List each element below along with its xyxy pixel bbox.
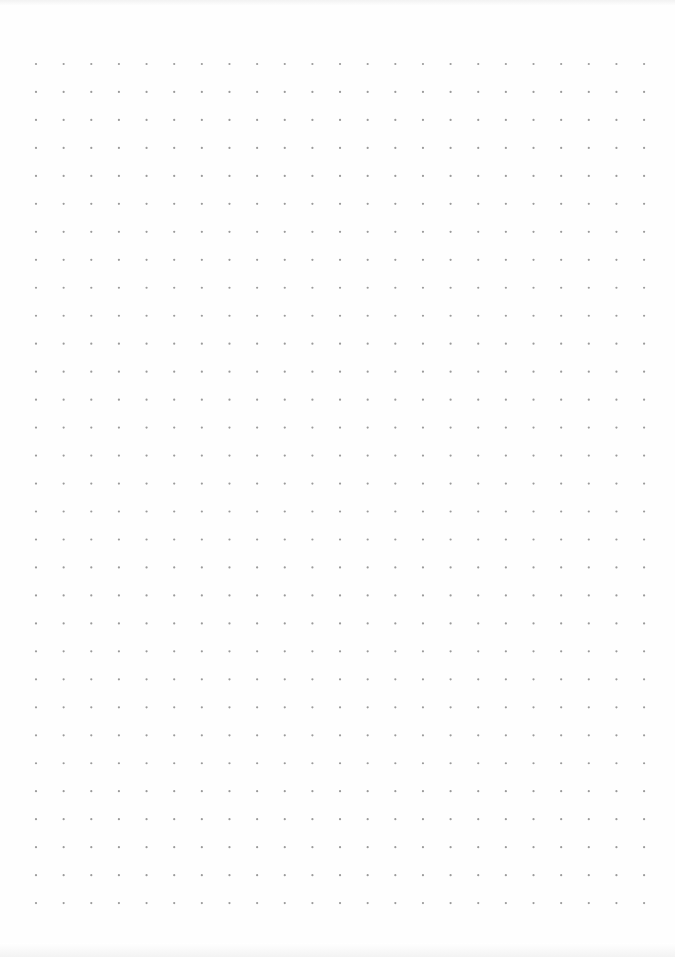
grid-dot (588, 287, 590, 289)
grid-dot (311, 762, 313, 764)
grid-dot (201, 315, 203, 317)
grid-dot (311, 63, 313, 65)
grid-dot (615, 678, 617, 680)
grid-dot (118, 818, 120, 820)
grid-dot (228, 762, 230, 764)
grid-dot (367, 63, 369, 65)
grid-dot (173, 846, 175, 848)
grid-dot (201, 538, 203, 540)
grid-dot (228, 734, 230, 736)
grid-dot (228, 259, 230, 261)
grid-dot (615, 706, 617, 708)
grid-dot (173, 790, 175, 792)
grid-dot (284, 818, 286, 820)
grid-dot (284, 706, 286, 708)
grid-dot (284, 538, 286, 540)
grid-dot (560, 734, 562, 736)
grid-dot (532, 902, 534, 904)
grid-dot (505, 818, 507, 820)
grid-dot (256, 538, 258, 540)
grid-dot (145, 259, 147, 261)
grid-dot (532, 175, 534, 177)
grid-dot (311, 231, 313, 233)
grid-dot (145, 454, 147, 456)
grid-dot (284, 846, 286, 848)
grid-dot (450, 510, 452, 512)
grid-dot (615, 454, 617, 456)
grid-dot (532, 343, 534, 345)
grid-dot (615, 734, 617, 736)
grid-dot (367, 287, 369, 289)
grid-dot (615, 175, 617, 177)
grid-dot (505, 874, 507, 876)
grid-dot (367, 846, 369, 848)
grid-dot (615, 594, 617, 596)
grid-dot (201, 203, 203, 205)
grid-dot (228, 399, 230, 401)
grid-dot (615, 371, 617, 373)
grid-dot (228, 287, 230, 289)
grid-dot (615, 510, 617, 512)
grid-dot (615, 91, 617, 93)
grid-dot (35, 315, 37, 317)
grid-dot (643, 818, 645, 820)
grid-dot (643, 790, 645, 792)
grid-dot (256, 315, 258, 317)
grid-dot (505, 91, 507, 93)
grid-dot (118, 203, 120, 205)
grid-dot (422, 63, 424, 65)
grid-dot (422, 371, 424, 373)
grid-dot (505, 203, 507, 205)
grid-dot (367, 566, 369, 568)
grid-dot (422, 678, 424, 680)
grid-dot (256, 63, 258, 65)
grid-dot (394, 454, 396, 456)
grid-dot (339, 175, 341, 177)
grid-dot (560, 63, 562, 65)
grid-dot (532, 91, 534, 93)
grid-dot (228, 790, 230, 792)
grid-dot (145, 594, 147, 596)
grid-dot (394, 343, 396, 345)
grid-dot (588, 594, 590, 596)
grid-dot (63, 650, 65, 652)
grid-dot (643, 510, 645, 512)
grid-dot (256, 91, 258, 93)
grid-dot (35, 874, 37, 876)
grid-dot (228, 706, 230, 708)
grid-dot (615, 874, 617, 876)
grid-dot (90, 427, 92, 429)
grid-dot (394, 510, 396, 512)
grid-dot (284, 790, 286, 792)
grid-dot (615, 147, 617, 149)
grid-dot (173, 538, 175, 540)
grid-dot (505, 371, 507, 373)
grid-dot (422, 427, 424, 429)
grid-dot (643, 315, 645, 317)
grid-dot (643, 622, 645, 624)
grid-dot (394, 63, 396, 65)
grid-dot (90, 762, 92, 764)
grid-dot (643, 259, 645, 261)
grid-dot (90, 650, 92, 652)
grid-dot (90, 231, 92, 233)
grid-dot (256, 119, 258, 121)
dot-grid-page (0, 0, 675, 957)
grid-dot (450, 706, 452, 708)
grid-dot (284, 147, 286, 149)
grid-dot (228, 594, 230, 596)
grid-dot (422, 594, 424, 596)
grid-dot (256, 734, 258, 736)
grid-dot (256, 343, 258, 345)
grid-dot (532, 119, 534, 121)
grid-dot (256, 454, 258, 456)
grid-dot (90, 566, 92, 568)
grid-dot (532, 427, 534, 429)
grid-dot (256, 594, 258, 596)
grid-dot (145, 734, 147, 736)
grid-dot (63, 538, 65, 540)
grid-dot (228, 454, 230, 456)
grid-dot (477, 175, 479, 177)
grid-dot (560, 343, 562, 345)
grid-dot (394, 622, 396, 624)
